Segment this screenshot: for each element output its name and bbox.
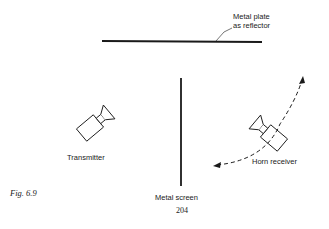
- arrowhead-bottom-icon: [213, 162, 221, 168]
- figure-caption: Fig. 6.9: [10, 188, 37, 198]
- receiver-label: Horn receiver: [252, 157, 297, 166]
- transmitter-label: Transmitter: [67, 153, 105, 162]
- transmitter-icon: [76, 105, 115, 142]
- reflector-label-line1: Metal plate: [233, 12, 270, 21]
- horn-receiver-icon: [249, 115, 288, 152]
- page-number: 204: [176, 206, 188, 215]
- arrowhead-top-icon: [299, 76, 305, 84]
- reflector-plate: [102, 41, 262, 42]
- screen-label: Metal screen: [155, 193, 198, 202]
- reflector-label-line2: as reflector: [233, 21, 270, 30]
- reflector-leader-line: [216, 28, 232, 41]
